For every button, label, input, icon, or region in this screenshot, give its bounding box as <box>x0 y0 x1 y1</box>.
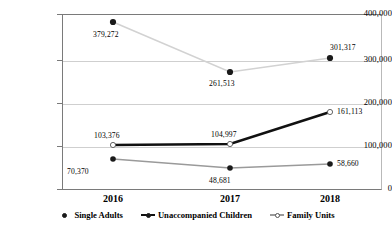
y-axis-tick-100000 <box>57 146 62 147</box>
datalabel-unaccompanied-children-2018: 161,113 <box>337 107 362 116</box>
datalabel-unaccompanied-children-2017: 104,997 <box>211 130 237 139</box>
line-chart: 400,000 300,000 200,000 100,000 0 2016 2… <box>0 0 392 233</box>
y-axis-tick-300000 <box>57 60 62 61</box>
y-axis-tick-200000 <box>57 103 62 104</box>
x-axis-label-2016: 2016 <box>78 193 148 205</box>
datalabel-family-units-2016: 379,272 <box>93 30 119 39</box>
y-axis-label-200000: 200,000 <box>334 98 392 107</box>
y-axis-label-100000: 100,000 <box>334 141 392 150</box>
y-axis-label-0: 0 <box>334 184 392 193</box>
legend-marker-family-units-icon <box>270 211 284 219</box>
x-axis-label-2017: 2017 <box>195 193 265 205</box>
datalabel-family-units-2017: 261,513 <box>209 79 235 88</box>
datalabel-family-units-2018: 301,317 <box>330 43 356 52</box>
y-axis-label-300000: 300,000 <box>334 55 392 64</box>
legend-label-family-units: Family Units <box>287 210 335 220</box>
datalabel-unaccompanied-children-2016: 103,376 <box>94 131 120 140</box>
x-axis-label-2018: 2018 <box>295 193 365 205</box>
legend-label-unaccompanied-children: Unaccompanied Children <box>158 210 252 220</box>
chart-legend: Single Adults Unaccompanied Children Fam… <box>0 210 392 220</box>
datalabel-single-adults-2017: 48,681 <box>209 176 231 185</box>
legend-item-family-units[interactable]: Family Units <box>270 210 335 220</box>
legend-marker-single-adults-icon <box>57 211 71 219</box>
legend-item-single-adults[interactable]: Single Adults <box>57 210 122 220</box>
legend-item-unaccompanied-children[interactable]: Unaccompanied Children <box>141 210 252 220</box>
datalabel-single-adults-2018: 58,660 <box>337 159 359 168</box>
legend-label-single-adults: Single Adults <box>74 210 122 220</box>
legend-marker-unaccompanied-children-icon <box>141 211 155 219</box>
y-axis-tick-400000 <box>57 14 62 15</box>
datalabel-single-adults-2016: 70,370 <box>67 167 89 176</box>
y-axis-tick-0 <box>57 189 62 190</box>
y-axis-label-400000: 400,000 <box>334 9 392 18</box>
